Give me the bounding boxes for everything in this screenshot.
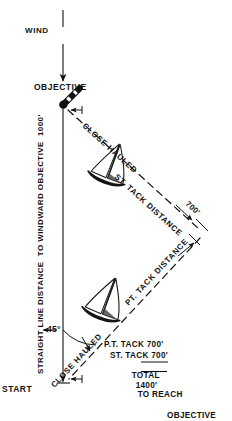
close-hauled-upper-leader [71, 106, 82, 114]
straight-line-distance-line [57, 105, 70, 383]
angle-45-label: 45° [47, 325, 61, 334]
summary-st-tack: ST. TACK 700' [110, 352, 175, 361]
summary-pt-tack: P.T. TACK 700' [104, 341, 169, 350]
start-label: START [2, 385, 32, 394]
summary-objective: OBJECTIVE [167, 412, 232, 421]
wind-label: WIND [25, 27, 49, 35]
summary-to-reach: TO REACH [138, 390, 183, 399]
objective-label: OBJECTIVE [34, 83, 87, 92]
summary-total-label: TOTAL [132, 371, 160, 380]
straight-line-distance-label: STRAIGHT LINE DISTANCE TO WINDWARD OBJEC… [37, 99, 45, 389]
summary-total-value: 1400' [136, 381, 158, 390]
summary-block: P.T. TACK 700' ST. TACK 700' TOTAL 1400'… [104, 341, 169, 414]
close-hauled-lower-leader [71, 375, 82, 383]
